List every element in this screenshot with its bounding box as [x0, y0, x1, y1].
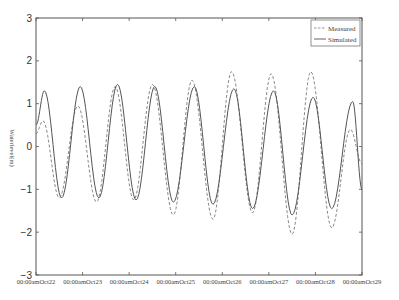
y-tick-label: 2	[26, 55, 32, 66]
y-tick-label: −2	[21, 227, 33, 238]
y-tick-label: −1	[21, 184, 33, 195]
y-tick-label: 3	[26, 13, 32, 24]
x-tick-label: 00:00amOct26	[203, 278, 242, 285]
axes-frame	[36, 18, 362, 275]
x-tick-label: 00:00amOct22	[17, 278, 56, 285]
x-tick-label: 00:00amOct23	[63, 278, 102, 285]
legend-label-simulated: Simulated	[328, 36, 357, 44]
x-tick-label: 00:00amOct29	[343, 278, 382, 285]
x-tick-label: 00:00amOct28	[296, 278, 335, 285]
plot-lines	[36, 72, 362, 235]
x-tick-label: 00:00amOct24	[110, 278, 149, 285]
series-line-measured	[36, 72, 362, 235]
y-axis-label: Waterlevel(m)	[8, 129, 16, 166]
legend-label-measured: Measured	[328, 25, 356, 33]
x-tick-label: 00:00amOct25	[156, 278, 195, 285]
y-tick-label: 0	[26, 141, 32, 152]
series-line-simulated	[36, 84, 362, 215]
y-axis: −3−2−10123	[21, 13, 362, 281]
y-tick-label: 1	[26, 98, 32, 109]
x-axis: 00:00amOct2200:00amOct2300:00amOct2400:0…	[17, 18, 382, 285]
legend: Measured Simulated	[311, 20, 360, 46]
x-tick-label: 00:00amOct27	[250, 278, 289, 285]
waterlevel-chart: −3−2−10123 00:00amOct2200:00amOct2300:00…	[0, 0, 399, 300]
